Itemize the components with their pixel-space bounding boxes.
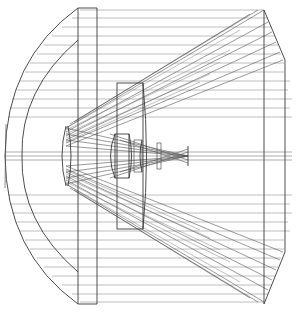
optical-ray-trace-diagram	[0, 0, 298, 316]
upper-oblique-bundle	[66, 10, 283, 146]
upper-oblique-bundle-thin	[66, 30, 240, 142]
optical-axis	[5, 152, 292, 160]
lower-oblique-bundle	[66, 166, 283, 302]
lower-oblique-bundle-thin	[66, 170, 240, 282]
